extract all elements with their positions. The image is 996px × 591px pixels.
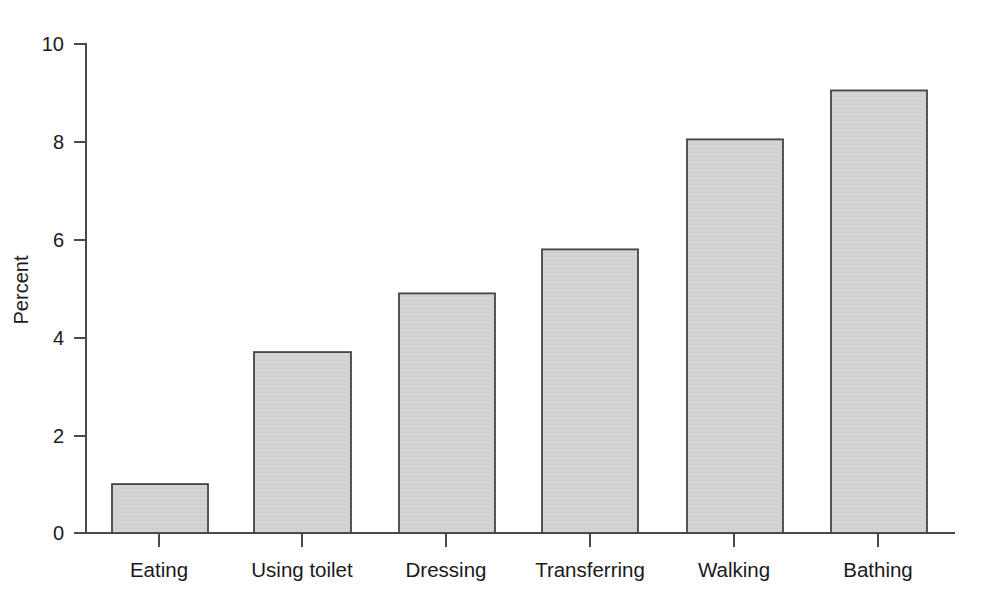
y-tick-label-0: 0: [53, 522, 64, 544]
bar-eating: [112, 484, 208, 533]
y-tick-label-2: 2: [53, 425, 64, 447]
x-tick-label-dressing: Dressing: [406, 558, 487, 581]
bar-chart: 10 8 6 4 2 0 Percent E: [0, 0, 996, 591]
x-tick-label-eating: Eating: [130, 558, 188, 581]
y-tick-label-4: 4: [53, 327, 64, 349]
bar-dressing: [399, 293, 495, 533]
y-tick-label-10: 10: [42, 33, 64, 55]
bar-bathing: [831, 90, 927, 533]
y-tick-label-8: 8: [53, 131, 64, 153]
x-tick-label-walking: Walking: [698, 558, 770, 581]
bar-using-toilet: [254, 352, 351, 533]
x-tick-label-transferring: Transferring: [535, 558, 645, 581]
y-tick-label-6: 6: [53, 229, 64, 251]
chart-page: 10 8 6 4 2 0 Percent E: [0, 0, 996, 591]
x-tick-label-using-toilet: Using toilet: [251, 558, 353, 581]
y-axis-title: Percent: [10, 255, 32, 324]
bar-walking: [687, 139, 783, 533]
x-tick-label-bathing: Bathing: [843, 558, 913, 581]
bar-transferring: [542, 249, 638, 533]
